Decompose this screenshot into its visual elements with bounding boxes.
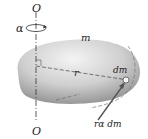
axis-top-label: O [32,2,41,15]
tangential-force-label: rα dm [94,119,122,129]
rotating-body-diagram: O α m r dm O rα dm [0,0,148,139]
alpha-label: α [16,22,24,35]
axis-bottom-label: O [32,125,41,138]
mass-label: m [81,32,90,43]
dm-label: dm [113,65,127,75]
mass-element-circle [123,77,129,83]
